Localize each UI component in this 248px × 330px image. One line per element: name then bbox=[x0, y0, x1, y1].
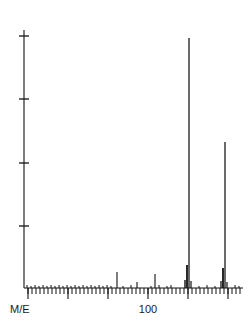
spectrum-plot-canvas: M/E 100 bbox=[0, 0, 248, 330]
x-axis-label: M/E bbox=[10, 303, 30, 315]
peak-cluster-secondary bbox=[221, 142, 227, 288]
peak-cluster-base bbox=[185, 38, 191, 288]
x-tick-label-100: 100 bbox=[139, 303, 157, 315]
spectrum-peaks-mid bbox=[117, 272, 155, 288]
x-axis-minor-ticks bbox=[28, 288, 240, 294]
mass-spectrum-figure: M/E 100 bbox=[0, 0, 248, 330]
